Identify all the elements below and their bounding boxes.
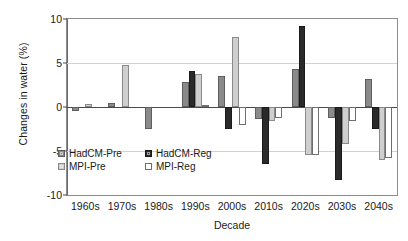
bar: [195, 74, 202, 107]
bar: [299, 26, 306, 107]
y-tick-label: 5: [56, 57, 62, 69]
x-tick-label: 2010s: [254, 200, 283, 212]
bar: [189, 71, 196, 107]
bar: [262, 107, 269, 164]
bar: [182, 82, 189, 107]
legend-item-label: HadCM-Pre: [69, 148, 122, 159]
bar: [275, 107, 282, 118]
swatch-mpi-reg-icon: [145, 163, 152, 170]
y-tick-label: 0: [56, 101, 62, 113]
bar: [349, 107, 356, 121]
legend-item: MPI-Pre: [58, 161, 139, 172]
bar: [255, 107, 262, 119]
y-tick-label: -10: [47, 189, 62, 201]
x-tick-label: 2040s: [364, 200, 393, 212]
x-tick-label: 1960s: [71, 200, 100, 212]
swatch-mpi-pre-icon: [58, 163, 65, 170]
bar: [328, 107, 335, 118]
x-tick-label: 2020s: [291, 200, 320, 212]
y-tick-mark: [63, 195, 67, 196]
bar-group: [360, 19, 397, 195]
bar: [232, 37, 239, 107]
bar: [305, 107, 312, 155]
bar: [372, 107, 379, 129]
bar-group: [287, 19, 324, 195]
bar-group: [250, 19, 287, 195]
bar: [379, 107, 386, 160]
y-axis-title: Changes in water (%): [17, 9, 29, 179]
chart-legend: HadCM-PreHadCM-RegMPI-PreMPI-Reg: [58, 148, 226, 172]
bar: [365, 79, 372, 107]
bar: [145, 107, 152, 129]
x-tick-label: 1980s: [144, 200, 173, 212]
x-tick-label: 1970s: [108, 200, 137, 212]
x-tick-label: 1990s: [181, 200, 210, 212]
bar: [292, 69, 299, 107]
bar: [108, 103, 115, 107]
bar: [202, 105, 209, 107]
bar: [225, 107, 232, 129]
bar: [342, 107, 349, 144]
bar: [122, 65, 129, 107]
y-tick-mark: [63, 63, 67, 64]
bar-group: [324, 19, 361, 195]
bar: [85, 104, 92, 107]
y-tick-label: 10: [50, 13, 62, 25]
legend-item: MPI-Reg: [145, 161, 226, 172]
swatch-hadcm-pre-icon: [58, 150, 65, 157]
bar: [269, 107, 276, 121]
x-tick-label: 2030s: [328, 200, 357, 212]
legend-item-label: MPI-Reg: [156, 161, 195, 172]
legend-item-label: HadCM-Reg: [156, 148, 212, 159]
legend-item: HadCM-Pre: [58, 148, 139, 159]
bar: [239, 107, 246, 125]
bar: [72, 107, 79, 111]
y-tick-mark: [63, 107, 67, 108]
x-axis-title: Decade: [66, 219, 398, 231]
bar: [335, 107, 342, 180]
x-tick-label: 2000s: [218, 200, 247, 212]
swatch-hadcm-reg-icon: [145, 150, 152, 157]
legend-item: HadCM-Reg: [145, 148, 226, 159]
y-tick-mark: [63, 19, 67, 20]
legend-item-label: MPI-Pre: [69, 161, 106, 172]
bar: [385, 107, 392, 158]
bar: [312, 107, 319, 155]
bar: [218, 76, 225, 107]
bar-chart-figure: Changes in water (%) 1050-5-10 1960s1970…: [0, 0, 408, 241]
